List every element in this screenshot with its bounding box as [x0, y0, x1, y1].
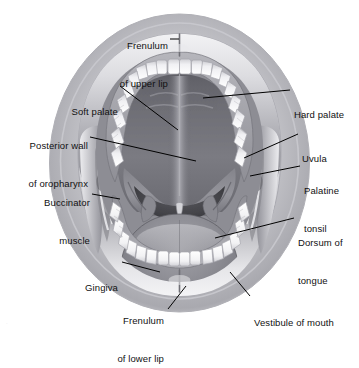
label-line: Hard palate — [294, 109, 358, 122]
upper-lip-highlight — [171, 44, 189, 52]
label-line: of lower lip — [78, 353, 164, 366]
label-line: Frenulum — [60, 40, 168, 53]
label-frenulum-of-lower-lip: Frenulum of lower lip — [78, 290, 164, 368]
label-line: Buccinator — [10, 197, 90, 210]
lower-lip-highlight — [169, 275, 191, 285]
clipped-caption: . — [0, 319, 359, 329]
label-hard-palate: Hard palate — [294, 84, 358, 134]
label-buccinator-muscle: Buccinator muscle — [10, 172, 90, 260]
label-line: Dorsum of — [298, 237, 358, 250]
label-vestibule-of-mouth: Vestibule of mouth — [254, 292, 359, 342]
label-line: muscle — [10, 235, 90, 248]
label-line: Palatine — [304, 185, 358, 198]
label-dorsum-of-tongue: Dorsum of tongue — [298, 212, 358, 300]
label-line: Posterior wall — [4, 140, 88, 153]
label-line: tongue — [298, 275, 358, 288]
